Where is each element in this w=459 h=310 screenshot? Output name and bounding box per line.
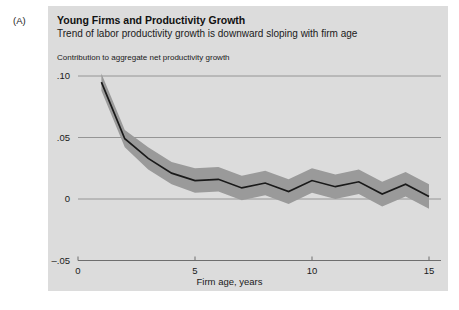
y-tick-label: 0 xyxy=(65,193,70,204)
x-tick-label: 10 xyxy=(307,265,318,276)
x-tick-label: 5 xyxy=(192,265,197,276)
y-tick-labels: –.050.05.10 xyxy=(52,70,71,266)
x-axis xyxy=(78,257,441,261)
confidence-band xyxy=(101,74,429,209)
y-tick-label: –.05 xyxy=(52,255,71,266)
y-tick-label: .05 xyxy=(57,132,70,143)
gridlines xyxy=(78,76,441,261)
x-tick-label: 0 xyxy=(75,265,80,276)
y-tick-label: .10 xyxy=(57,70,70,81)
plot-area: –.050.05.10 051015 xyxy=(0,0,459,310)
figure-container: (A) Young Firms and Productivity Growth … xyxy=(0,0,459,310)
x-tick-label: 15 xyxy=(424,265,435,276)
x-tick-labels: 051015 xyxy=(75,265,434,276)
x-axis-title: Firm age, years xyxy=(0,276,459,287)
confidence-band-area xyxy=(101,74,429,209)
